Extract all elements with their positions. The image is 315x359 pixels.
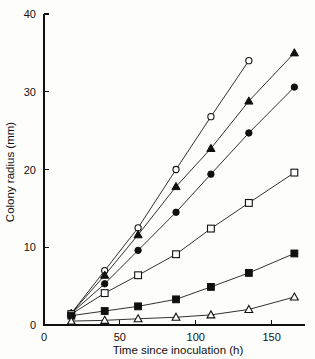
y-tick-label: 40 [24, 8, 36, 20]
data-point-filled-circle [208, 171, 214, 177]
x-tick-label: 150 [262, 331, 280, 343]
data-point-filled-circle [173, 209, 179, 215]
data-point-filled-square [101, 308, 108, 315]
data-point-open-square [245, 200, 252, 207]
y-tick-label: 10 [24, 241, 36, 253]
data-point-filled-circle [246, 130, 252, 136]
data-point-open-square [208, 225, 215, 232]
data-point-open-square [101, 290, 108, 297]
data-point-filled-triangle [290, 49, 298, 56]
y-tick-label: 0 [30, 319, 36, 331]
series-open-circle [68, 58, 252, 317]
data-point-filled-square [245, 270, 252, 277]
data-point-filled-square [135, 303, 142, 310]
series-filled-circle [68, 84, 297, 317]
figure-container: 010203040050100150 Time since inoculatio… [0, 0, 315, 359]
y-axis-title: Colony radius (mm) [4, 122, 16, 222]
tick-marks-group [44, 14, 272, 325]
x-tick-label: 0 [41, 331, 47, 343]
x-tick-label: 50 [114, 331, 126, 343]
series-open-square [68, 169, 298, 317]
data-point-open-circle [173, 166, 179, 172]
tick-labels-group: 010203040050100150 [24, 8, 281, 343]
data-point-filled-square [208, 284, 215, 291]
data-point-filled-circle [101, 281, 107, 287]
data-point-open-circle [208, 114, 214, 120]
data-point-open-circle [246, 58, 252, 64]
series-line-filled-circle [71, 87, 294, 313]
data-point-filled-circle [135, 247, 141, 253]
data-point-filled-circle [291, 84, 297, 90]
data-point-open-triangle [290, 293, 298, 300]
y-tick-label: 20 [24, 164, 36, 176]
data-series-group [67, 49, 298, 324]
colony-growth-chart: 010203040050100150 Time since inoculatio… [0, 0, 315, 359]
y-tick-label: 30 [24, 86, 36, 98]
data-point-open-square [135, 272, 142, 279]
data-point-filled-square [173, 296, 180, 303]
series-filled-triangle [67, 49, 298, 317]
x-axis-title: Time since inoculation (h) [113, 344, 244, 356]
data-point-open-square [291, 169, 298, 176]
data-point-open-square [173, 251, 180, 258]
data-point-filled-square [291, 250, 298, 257]
x-tick-label: 100 [187, 331, 205, 343]
series-line-open-circle [71, 61, 249, 314]
